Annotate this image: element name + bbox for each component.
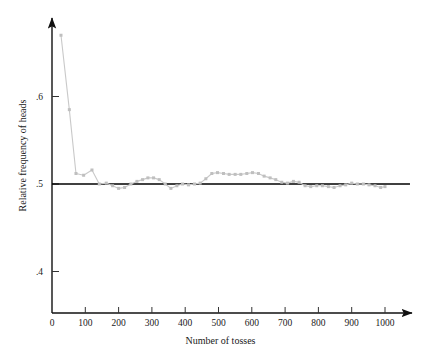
x-tick-label: 100 [78, 318, 93, 328]
x-tick-label: 800 [311, 318, 326, 328]
relative-frequency-chart: .4.5.601002003004005006007008009001000Nu… [0, 0, 434, 357]
y-tick-label: .6 [36, 92, 43, 102]
x-tick-label: 400 [178, 318, 193, 328]
y-axis-title: Relative frequency of heads [17, 99, 28, 211]
x-tick-label: 200 [111, 318, 126, 328]
y-tick-label: .5 [36, 179, 43, 189]
x-tick-label: 0 [50, 318, 55, 328]
figure-container: .4.5.601002003004005006007008009001000Nu… [0, 0, 434, 357]
x-tick-label: 600 [245, 318, 260, 328]
x-tick-label: 900 [345, 318, 360, 328]
data-series-line-0 [61, 35, 385, 188]
x-axis-title: Number of tosses [186, 335, 256, 346]
x-tick-label: 1000 [376, 318, 395, 328]
x-tick-label: 700 [278, 318, 293, 328]
x-tick-label: 300 [145, 318, 160, 328]
y-tick-label: .4 [36, 267, 43, 277]
x-tick-label: 500 [211, 318, 226, 328]
data-series-markers-0 [59, 34, 386, 190]
